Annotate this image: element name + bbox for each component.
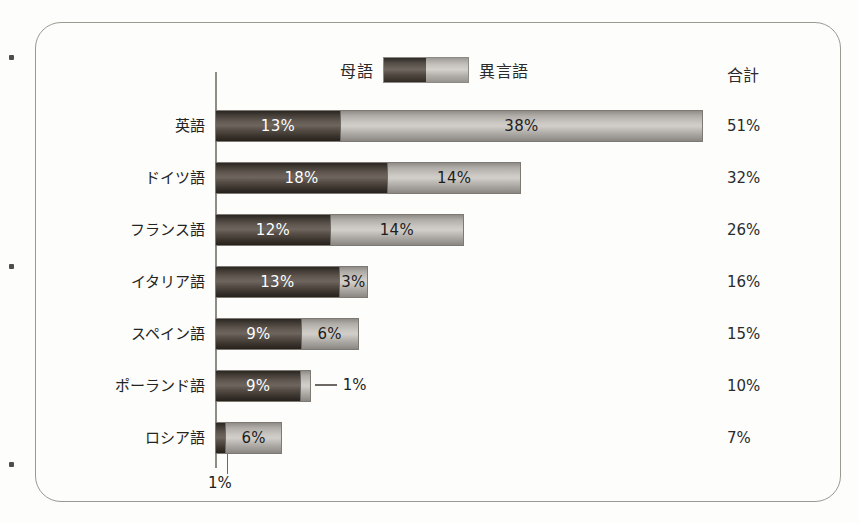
- bar-segment-foreign[interactable]: 14%: [387, 163, 520, 193]
- bar-value-foreign: 14%: [380, 221, 414, 239]
- category-label-3: フランス語: [60, 213, 205, 247]
- stacked-bar[interactable]: 6%: [215, 422, 282, 454]
- chart-row: イタリア語13%3%16%: [0, 265, 859, 299]
- native-speaker-swatch: [384, 58, 426, 82]
- bar-segment-foreign[interactable]: [300, 371, 309, 401]
- bar-segment-foreign[interactable]: 14%: [330, 215, 463, 245]
- category-label-2: ドイツ語: [60, 161, 205, 195]
- callout-leader-line: [315, 384, 337, 385]
- chart-legend: 母語 異言語: [340, 56, 529, 84]
- stacked-bar[interactable]: 13%3%: [215, 266, 368, 298]
- category-label-1: 英語: [60, 109, 205, 143]
- bar-value-foreign: 6%: [318, 325, 342, 343]
- bar-value-native: 9%: [246, 325, 270, 343]
- total-value: 15%: [727, 317, 760, 351]
- total-value: 10%: [727, 369, 760, 403]
- callout-leader-line: [227, 454, 228, 474]
- callout-text: 1%: [208, 474, 232, 492]
- chart-row: スペイン語9%6%15%: [0, 317, 859, 351]
- bar-segment-native[interactable]: 18%: [216, 163, 387, 193]
- bar-value-callout: 1%: [315, 376, 367, 394]
- category-label-text: 英語: [60, 109, 205, 143]
- category-label-text: ロシア語: [60, 421, 205, 455]
- stacked-bar[interactable]: 9%: [215, 370, 311, 402]
- category-label-7: ロシア語: [60, 421, 205, 455]
- chart-row: ポーランド語9%1%10%: [0, 369, 859, 403]
- chart-row: 英語13%38%51%: [0, 109, 859, 143]
- bar-value-foreign: 38%: [504, 117, 538, 135]
- bar-segment-native[interactable]: 9%: [216, 371, 300, 401]
- chart-row: ドイツ語18%14%32%: [0, 161, 859, 195]
- category-label-text: ドイツ語: [60, 161, 205, 195]
- bar-segment-native[interactable]: [216, 423, 225, 453]
- legend-swatch: [383, 57, 469, 83]
- bar-value-foreign: 14%: [437, 169, 471, 187]
- bar-segment-native[interactable]: 9%: [216, 319, 301, 349]
- bar-value-foreign: 6%: [241, 429, 265, 447]
- bar-segment-foreign[interactable]: 6%: [225, 423, 281, 453]
- stacked-bar[interactable]: 13%38%: [215, 110, 703, 142]
- bar-value-native: 13%: [260, 273, 294, 291]
- category-label-6: ポーランド語: [60, 369, 205, 403]
- stacked-bar[interactable]: 12%14%: [215, 214, 464, 246]
- page-background: 母語 異言語 合計 英語13%38%51%ドイツ語18%14%32%フランス語1…: [0, 0, 859, 523]
- bar-segment-foreign[interactable]: 38%: [340, 111, 702, 141]
- callout-text: 1%: [343, 376, 367, 394]
- foreign-speaker-swatch: [426, 58, 468, 82]
- legend-label-foreign: 異言語: [479, 58, 529, 82]
- total-value: 26%: [727, 213, 760, 247]
- stacked-bar[interactable]: 18%14%: [215, 162, 521, 194]
- bar-value-native: 18%: [284, 169, 318, 187]
- chart-row: ロシア語6%1%7%: [0, 421, 859, 455]
- total-value: 51%: [727, 109, 760, 143]
- legend-label-native: 母語: [340, 58, 373, 82]
- bar-segment-native[interactable]: 13%: [216, 111, 340, 141]
- category-label-4: イタリア語: [60, 265, 205, 299]
- category-label-text: イタリア語: [60, 265, 205, 299]
- total-value: 32%: [727, 161, 760, 195]
- stacked-bar[interactable]: 9%6%: [215, 318, 359, 350]
- total-value: 7%: [727, 421, 751, 455]
- category-label-text: ポーランド語: [60, 369, 205, 403]
- total-column-header: 合計: [727, 62, 759, 86]
- bar-value-native: 13%: [261, 117, 295, 135]
- bar-value-foreign: 3%: [341, 273, 365, 291]
- chart-row: フランス語12%14%26%: [0, 213, 859, 247]
- category-label-text: フランス語: [60, 213, 205, 247]
- stacked-bar-chart: 母語 異言語 合計 英語13%38%51%ドイツ語18%14%32%フランス語1…: [0, 0, 859, 523]
- bar-value-native: 9%: [246, 377, 270, 395]
- total-value: 16%: [727, 265, 760, 299]
- category-label-5: スペイン語: [60, 317, 205, 351]
- category-label-text: スペイン語: [60, 317, 205, 351]
- bar-segment-native[interactable]: 12%: [216, 215, 330, 245]
- bar-value-native: 12%: [256, 221, 290, 239]
- bar-segment-native[interactable]: 13%: [216, 267, 339, 297]
- bar-segment-foreign[interactable]: 6%: [301, 319, 358, 349]
- bar-segment-foreign[interactable]: 3%: [339, 267, 367, 297]
